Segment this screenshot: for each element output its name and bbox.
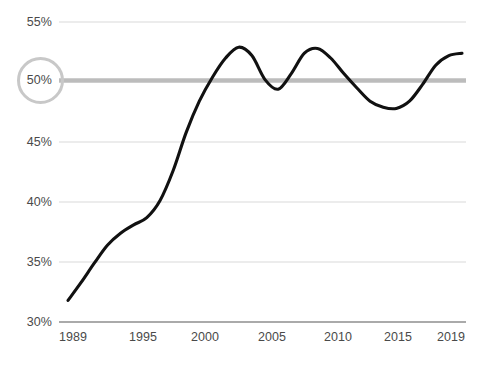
- gridlines: [59, 22, 466, 262]
- x-tick-label-2010: 2010: [312, 330, 364, 344]
- y-tick-label-35: 35%: [8, 255, 52, 269]
- x-tick-label-2000: 2000: [179, 330, 231, 344]
- line-chart: 55% 50% 45% 40% 35% 30% 1989 1995 2000 2…: [0, 0, 485, 368]
- chart-plot-area: [0, 0, 485, 368]
- x-tick-label-2019: 2019: [425, 330, 477, 344]
- y-tick-label-30: 30%: [8, 315, 52, 329]
- x-tick-label-1995: 1995: [117, 330, 169, 344]
- x-tick-label-1989: 1989: [47, 330, 99, 344]
- x-tick-label-2005: 2005: [246, 330, 298, 344]
- y-tick-label-40: 40%: [8, 195, 52, 209]
- y-tick-label-55: 55%: [8, 15, 52, 29]
- x-tick-label-2015: 2015: [372, 330, 424, 344]
- highlight-ring-50-percent: [17, 57, 64, 104]
- y-tick-label-45: 45%: [8, 135, 52, 149]
